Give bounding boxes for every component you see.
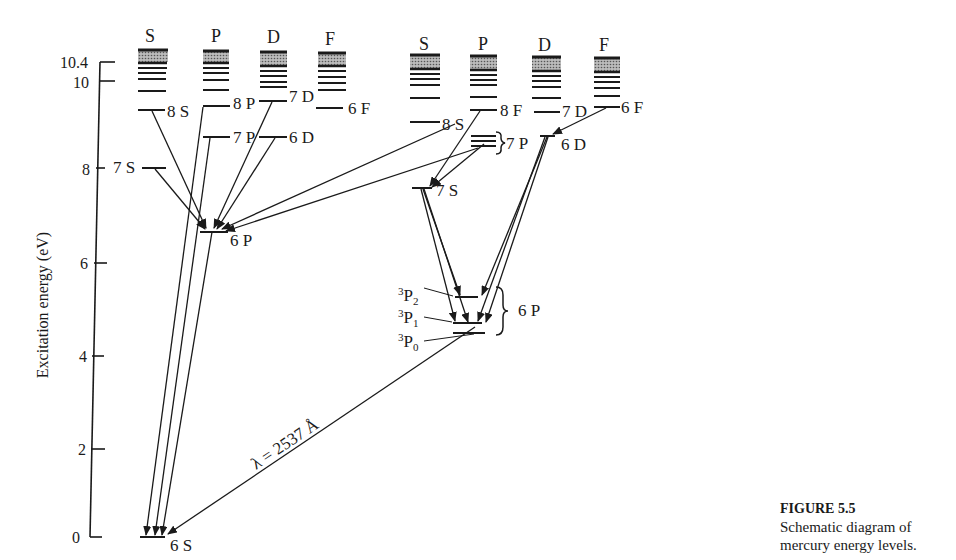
triplet-level-6d: 6 D	[561, 135, 586, 154]
brace-7p	[496, 132, 505, 154]
triplet-header-p: P	[478, 34, 488, 54]
singlet-header-f: F	[325, 29, 335, 49]
triplet-level-8f: 8 F	[500, 101, 522, 120]
sublevel-3p0: 3P0	[398, 331, 419, 353]
figure-caption: FIGURE 5.5 Schematic diagram of mercury …	[780, 500, 956, 554]
figure-number: FIGURE 5.5	[780, 500, 956, 518]
level-6d: 6 D	[289, 128, 314, 147]
tick-4: 4	[79, 348, 87, 365]
level-6f: 6 F	[348, 99, 370, 118]
tick-8: 8	[82, 161, 90, 178]
level-8s: 8 S	[167, 102, 189, 121]
energy-level-diagram: 10.4 10 8 6 4 2 0 Excitation energy (eV)…	[0, 0, 956, 560]
axis-label: Excitation energy (eV)	[34, 232, 52, 378]
tick-10: 10	[73, 74, 89, 91]
singlet-transitions	[146, 102, 478, 535]
triplet-header-f: F	[599, 35, 609, 55]
singlet-header-d: D	[267, 27, 280, 47]
singlet-header-p: P	[211, 26, 221, 46]
triplet-header-s: S	[419, 34, 429, 54]
wavelength-label: λ = 2537 Å	[248, 414, 323, 473]
level-8p: 8 P	[233, 94, 255, 113]
triplet-level-7s: 7 S	[436, 181, 458, 200]
sublevel-3p1: 3P1	[398, 307, 418, 329]
triplet-level-7d: 7 D	[562, 102, 587, 121]
level-7s: 7 S	[113, 158, 135, 177]
level-7d: 7 D	[289, 87, 314, 106]
energy-axis	[90, 62, 115, 537]
sublevel-labels: 3P2 3P1 3P0	[398, 285, 419, 353]
singlet-levels	[138, 101, 343, 537]
brace-6p	[496, 287, 508, 335]
tick-0: 0	[72, 529, 80, 546]
triplet-level-stacks	[410, 55, 620, 98]
tick-2: 2	[78, 441, 86, 458]
level-6s-ground: 6 S	[170, 536, 192, 555]
tick-10.4: 10.4	[60, 54, 88, 71]
triplet-level-8s: 8 S	[442, 115, 464, 134]
figure-caption-text: Schematic diagram of mercury energy leve…	[780, 518, 956, 554]
level-6p: 6 P	[230, 231, 252, 250]
tick-6: 6	[80, 255, 88, 272]
triplet-level-7p: 7 P	[506, 134, 528, 153]
sublevel-3p2: 3P2	[398, 285, 418, 307]
triplet-header-d: D	[538, 35, 551, 55]
triplet-level-6p: 6 P	[518, 301, 540, 320]
triplet-level-6f: 6 F	[621, 98, 643, 117]
singlet-header-s: S	[145, 26, 155, 46]
